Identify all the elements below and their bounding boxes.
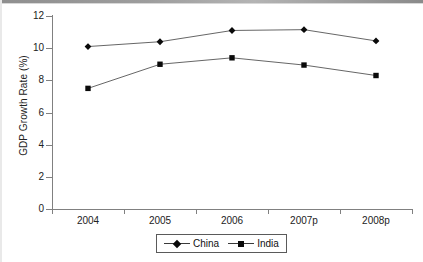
x-tick-mark (196, 209, 197, 214)
y-tick-mark (46, 48, 52, 49)
data-point-china (157, 38, 164, 45)
y-tick-mark (46, 113, 52, 114)
y-tick-mark (46, 16, 52, 17)
x-tick-mark (268, 209, 269, 214)
line-chart: GDP Growth Rate (%) 024681012 2004200520… (0, 0, 423, 262)
data-point-china (85, 43, 92, 50)
diamond-marker-icon (164, 239, 190, 249)
legend-label-china: China (193, 238, 219, 249)
y-tick-mark (46, 80, 52, 81)
data-point-india (301, 62, 306, 67)
data-point-china (229, 27, 236, 34)
y-tick-mark (46, 177, 52, 178)
data-point-india (157, 62, 162, 67)
x-tick-mark (124, 209, 125, 214)
series-plot-layer (0, 0, 423, 262)
x-tick-mark (412, 209, 413, 214)
legend-entry-china: China (164, 238, 219, 249)
y-tick-mark (46, 145, 52, 146)
data-point-india (229, 55, 234, 60)
chart-page: GDP Growth Rate (%) 024681012 2004200520… (0, 0, 423, 262)
x-tick-mark (340, 209, 341, 214)
data-point-china (373, 38, 380, 45)
legend-entry-india: India (228, 238, 279, 249)
square-marker-icon (228, 239, 254, 249)
legend-label-india: India (257, 238, 279, 249)
data-point-india (373, 73, 378, 78)
data-point-china (301, 26, 308, 33)
data-point-india (85, 86, 90, 91)
chart-legend: China India (156, 234, 287, 253)
x-tick-mark (52, 209, 53, 214)
series-line-india (88, 58, 376, 89)
